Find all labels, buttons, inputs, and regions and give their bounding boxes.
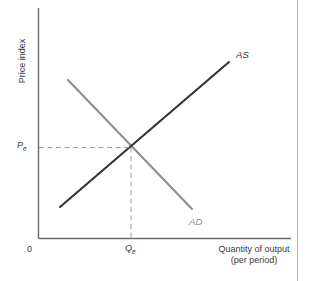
ad-curve <box>68 80 192 209</box>
ad-as-diagram-figure: Price index Quantity of output (per peri… <box>0 0 312 281</box>
equilibrium-quantity-label: Qe <box>125 243 136 255</box>
ad-curve-label: AD <box>189 216 203 227</box>
origin-label: 0 <box>27 244 32 254</box>
equilibrium-quantity-subscript: e <box>132 248 136 255</box>
x-axis-title: Quantity of output (per period) <box>206 244 302 266</box>
as-curve-label: AS <box>236 49 249 60</box>
x-axis-title-line2: (per period) <box>206 255 302 266</box>
equilibrium-price-label: Pe <box>17 140 27 152</box>
chart-canvas <box>0 0 312 281</box>
x-axis-title-line1: Quantity of output <box>206 244 302 255</box>
equilibrium-price-subscript: e <box>23 145 27 152</box>
equilibrium-quantity-symbol: Q <box>125 243 132 253</box>
as-curve <box>60 62 229 207</box>
y-axis-title: Price index <box>17 25 27 97</box>
